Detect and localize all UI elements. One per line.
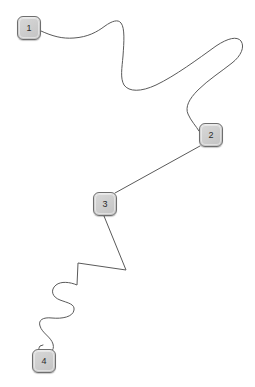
edge-node2-node3 bbox=[115, 146, 200, 193]
node-2-inner: 2 bbox=[201, 125, 221, 145]
edge-node3-node4 bbox=[39, 216, 126, 354]
node-3-label: 3 bbox=[102, 200, 107, 209]
node-4-inner: 4 bbox=[34, 351, 54, 371]
node-1-label: 1 bbox=[26, 24, 31, 33]
edge-layer bbox=[0, 0, 255, 387]
node-1[interactable]: 1 bbox=[17, 16, 41, 40]
node-3-inner: 3 bbox=[95, 194, 115, 214]
node-1-inner: 1 bbox=[19, 18, 39, 38]
node-3[interactable]: 3 bbox=[93, 192, 117, 216]
edge-node1-node2 bbox=[41, 21, 243, 131]
node-4[interactable]: 4 bbox=[32, 349, 56, 373]
node-4-label: 4 bbox=[41, 357, 46, 366]
diagram-canvas: 1 2 3 4 bbox=[0, 0, 255, 387]
node-2[interactable]: 2 bbox=[199, 123, 223, 147]
node-2-label: 2 bbox=[208, 131, 213, 140]
